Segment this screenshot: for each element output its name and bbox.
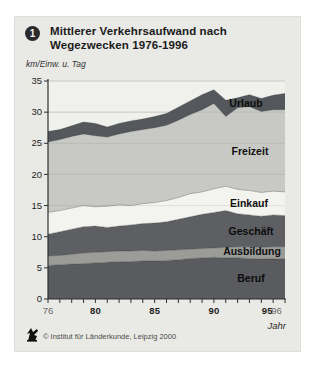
y-tick-label: 15 <box>31 200 42 211</box>
chart-title-line1: Mittlerer Verkehrsaufwand nach <box>50 25 285 39</box>
chart-title: Mittlerer Verkehrsaufwand nach Wegezweck… <box>50 25 285 52</box>
y-tick-label: 5 <box>37 262 42 273</box>
band-label-urlaub: Urlaub <box>229 97 262 109</box>
copyright-credit: © Institut für Länderkunde, Leipzig 2000 <box>43 332 176 341</box>
x-tick-label: 96 <box>271 305 282 316</box>
figure-number-badge: 1 <box>25 26 40 41</box>
figure: 05101520253035768085909596 1 Mittlerer V… <box>0 0 314 367</box>
y-tick-label: 25 <box>31 137 42 148</box>
chart-title-line2: Wegezwecken 1976-1996 <box>50 39 285 53</box>
band-label-geschaeft: Geschäft <box>229 225 274 237</box>
band-label-beruf: Beruf <box>237 272 264 284</box>
x-axis-label: Jahr <box>240 320 286 331</box>
stacked-area-chart: 05101520253035768085909596 <box>0 0 314 367</box>
band-label-ausbildung: Ausbildung <box>223 245 281 257</box>
y-tick-label: 35 <box>31 75 42 86</box>
x-tick-label: 85 <box>149 305 160 316</box>
ifl-logo-icon <box>25 328 40 342</box>
y-axis-unit-label: km/Einw. u. Tag <box>26 59 86 69</box>
band-label-einkauf: Einkauf <box>230 197 268 209</box>
y-tick-label: 30 <box>31 106 42 117</box>
x-tick-label: 76 <box>43 305 54 316</box>
y-tick-label: 10 <box>31 231 42 242</box>
y-tick-label: 0 <box>37 293 42 304</box>
band-label-freizeit: Freizeit <box>232 145 269 157</box>
y-tick-label: 20 <box>31 169 42 180</box>
x-tick-label: 80 <box>90 305 101 316</box>
x-tick-label: 90 <box>209 305 220 316</box>
